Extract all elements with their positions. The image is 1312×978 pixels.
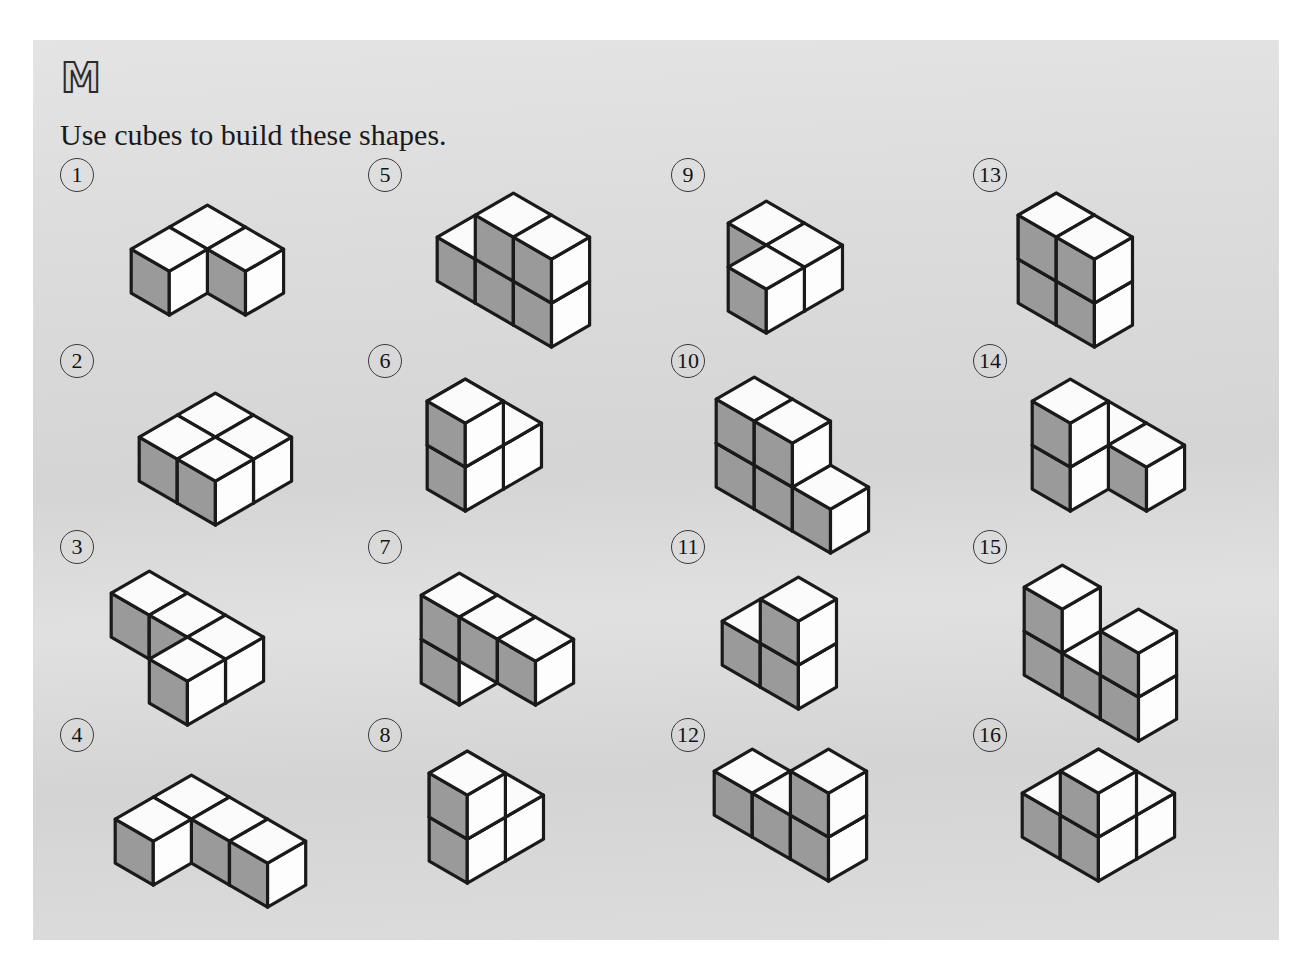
cube-shape-11: [719, 574, 840, 712]
problem-number-badge: 13: [973, 158, 1007, 192]
cube-shape-2: [136, 390, 295, 528]
problem-number-badge: 6: [368, 344, 402, 378]
cube-shape-12: [711, 746, 870, 884]
cube-shape-9: [725, 198, 846, 336]
problem-number-badge: 3: [60, 530, 94, 564]
problem-number-badge: 7: [368, 530, 402, 564]
cube-shape-6: [424, 376, 545, 514]
problem-number-badge: 14: [973, 344, 1007, 378]
cube-shape-3: [108, 568, 267, 728]
problem-number-badge: 15: [973, 530, 1007, 564]
publisher-logo-m: M: [61, 58, 101, 98]
cube-shape-7: [418, 570, 577, 708]
cube-shape-5: [434, 190, 593, 350]
problem-number-badge: 5: [368, 158, 402, 192]
cube-shape-16: [1019, 746, 1178, 884]
worksheet-page: M Use cubes to build these shapes. 12345…: [33, 40, 1279, 940]
cube-shape-8: [426, 748, 547, 886]
cube-shape-1: [128, 202, 287, 318]
cube-shape-13: [1015, 190, 1136, 350]
problem-number-badge: 2: [60, 344, 94, 378]
cube-shape-14: [1029, 376, 1188, 514]
problem-number-badge: 11: [671, 530, 705, 564]
problem-number-badge: 10: [671, 344, 705, 378]
problem-number-badge: 12: [671, 718, 705, 752]
page-content: M Use cubes to build these shapes. 12345…: [33, 40, 1279, 940]
problem-number-badge: 16: [973, 718, 1007, 752]
cube-shape-15: [1021, 562, 1180, 744]
problem-number-badge: 4: [60, 718, 94, 752]
instruction-text: Use cubes to build these shapes.: [60, 118, 447, 152]
problem-number-badge: 8: [368, 718, 402, 752]
problem-number-badge: 1: [60, 158, 94, 192]
cube-shape-4: [112, 772, 309, 910]
problem-number-badge: 9: [671, 158, 705, 192]
cube-shape-10: [713, 374, 872, 556]
